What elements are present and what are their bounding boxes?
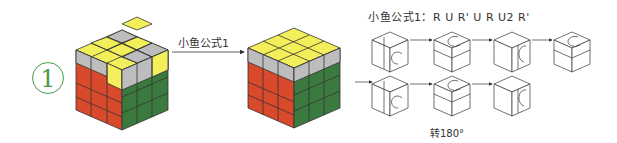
move-u-icon [434, 32, 470, 72]
move-u-icon-2 [554, 32, 590, 72]
cube-before [76, 17, 168, 130]
diagram-svg [0, 0, 617, 143]
diagram-stage: 1 小鱼公式1 小鱼公式1：R U R' U R U2 R' 转180° [0, 0, 617, 143]
move-r-icon-2 [372, 76, 408, 116]
move-r-prime-icon [494, 32, 530, 72]
move-r-prime-icon-2 [494, 76, 530, 116]
move-u2-icon [434, 76, 470, 116]
cube-after [248, 28, 340, 128]
move-r-icon [372, 32, 408, 72]
move-diagrams [355, 32, 590, 116]
